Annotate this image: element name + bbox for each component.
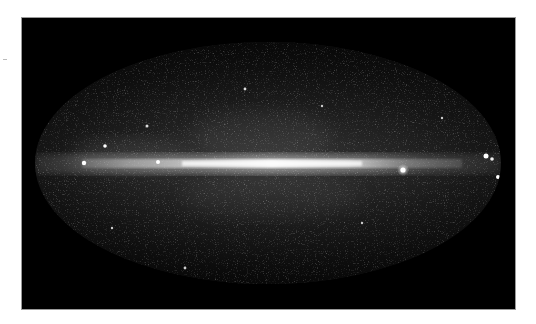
sky-map-frame bbox=[21, 17, 516, 310]
edge-artifact bbox=[3, 59, 7, 60]
all-sky-map-image bbox=[22, 18, 515, 309]
sky-ellipse bbox=[22, 18, 515, 309]
